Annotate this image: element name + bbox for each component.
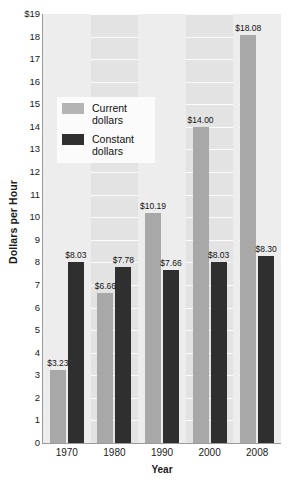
x-axis-title: Year	[43, 464, 281, 475]
plot-area: $3.23$8.03$6.66$7.78$10.19$7.66$14.00$8.…	[43, 14, 281, 443]
legend-item-constant: Constant dollars	[62, 133, 148, 157]
y-axis-tick-label: 8	[35, 258, 40, 268]
y-axis-tick-label: 6	[35, 303, 40, 313]
bar	[50, 370, 66, 443]
bar-value-label: $6.66	[95, 282, 116, 291]
y-axis-tick-label: 13	[29, 145, 40, 155]
bar	[97, 293, 113, 443]
bar	[115, 267, 131, 443]
y-axis-tick-label: 1	[35, 416, 40, 426]
bar-chart: Dollars per Hour $1918171615141312111098…	[0, 0, 290, 482]
y-axis-tick-label: 12	[29, 167, 40, 177]
y-axis-title: Dollars per Hour	[2, 0, 24, 443]
y-axis-tick-label: 18	[29, 32, 40, 42]
bar-value-label: $7.78	[113, 256, 134, 265]
bar-value-label: $8.03	[65, 251, 86, 260]
y-axis-tick-labels: $191817161514131211109876543210	[24, 0, 40, 443]
y-axis-tick-label: 9	[35, 235, 40, 245]
bar	[240, 35, 256, 443]
bar-value-label: $8.03	[208, 251, 229, 260]
bar	[211, 262, 227, 443]
y-axis-tick-label: 4	[35, 348, 40, 358]
bar-value-label: $3.23	[47, 359, 68, 368]
bar	[145, 213, 161, 443]
y-axis-tick-label: 0	[35, 438, 40, 448]
x-axis-tick-label: 1970	[56, 448, 78, 458]
chart-legend: Current dollars Constant dollars	[57, 97, 155, 163]
x-axis-tick-label: 1990	[151, 448, 173, 458]
legend-label-constant: Constant dollars	[92, 133, 148, 157]
legend-item-current: Current dollars	[62, 102, 148, 126]
y-axis-tick-label: 3	[35, 371, 40, 381]
x-axis-tick-label: 2008	[246, 448, 268, 458]
bar-value-label: $7.66	[160, 259, 181, 268]
y-axis-tick-label: 14	[29, 122, 40, 132]
y-axis-tick-label: 5	[35, 325, 40, 335]
x-axis-tick-labels: 19701980199020002008	[43, 448, 281, 462]
y-axis-tick-label: 10	[29, 212, 40, 222]
legend-swatch-current-icon	[62, 103, 84, 114]
y-axis-tick-label: $19	[24, 9, 40, 19]
y-axis-tick-label: 2	[35, 393, 40, 403]
legend-swatch-constant-icon	[62, 134, 84, 145]
y-axis-title-text: Dollars per Hour	[7, 180, 19, 264]
x-axis-tick-label: 2000	[198, 448, 220, 458]
bar	[163, 270, 179, 443]
bar	[193, 127, 209, 443]
bar	[258, 256, 274, 443]
y-axis-tick-label: 17	[29, 54, 40, 64]
bar-value-label: $8.30	[256, 245, 277, 254]
y-axis-tick-label: 11	[30, 190, 40, 200]
legend-label-current: Current dollars	[92, 102, 148, 126]
bar-value-label: $14.00	[188, 116, 214, 125]
x-axis-tick-label: 1980	[103, 448, 125, 458]
y-axis-tick-label: 16	[29, 77, 40, 87]
bar	[68, 262, 84, 443]
bar-value-label: $18.08	[235, 24, 261, 33]
x-axis-line	[42, 443, 281, 444]
bar-value-label: $10.19	[140, 202, 166, 211]
y-axis-tick-label: 15	[29, 100, 40, 110]
y-axis-tick-label: 7	[35, 280, 40, 290]
